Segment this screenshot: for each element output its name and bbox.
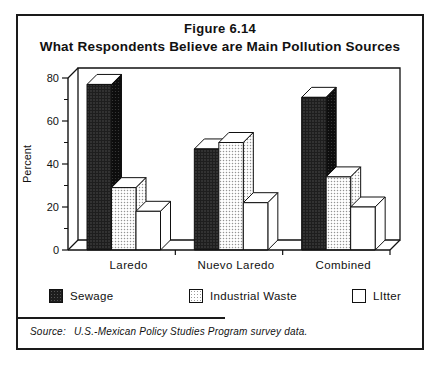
legend-label-litter: LItter — [373, 290, 401, 302]
litter-swatch-icon — [352, 289, 366, 303]
category-label: Combined — [316, 259, 372, 271]
industrial-waste-swatch-icon — [189, 289, 203, 303]
bar-chart-plot: 020406080PercentLaredoNuevo LaredoCombin… — [0, 0, 440, 366]
y-tick-label: 20 — [47, 201, 59, 213]
sewage-swatch-icon — [49, 289, 63, 303]
bar-nuevo-laredo-2 — [243, 193, 278, 250]
legend-item-litter: LItter — [352, 289, 401, 303]
y-tick-label: 40 — [47, 158, 59, 170]
legend-item-sewage: Sewage — [49, 289, 113, 303]
source-note: Source:U.S.-Mexican Policy Studies Progr… — [30, 326, 307, 337]
figure-page: Figure 6.14 What Respondents Believe are… — [0, 0, 440, 366]
y-tick-label: 80 — [47, 72, 59, 84]
source-divider-line — [17, 317, 225, 319]
legend-label-sewage: Sewage — [70, 290, 113, 302]
bar-combined-2 — [351, 197, 386, 250]
y-tick-label: 60 — [47, 115, 59, 127]
y-axis-label: Percent — [21, 145, 33, 183]
legend-item-industrial-waste: Industrial Waste — [189, 289, 297, 303]
y-tick-label: 0 — [53, 244, 59, 256]
bar-laredo-2 — [136, 201, 171, 250]
source-text: U.S.-Mexican Policy Studies Program surv… — [74, 326, 308, 337]
source-label: Source: — [30, 326, 66, 337]
legend-label-industrial-waste: Industrial Waste — [210, 290, 297, 302]
category-label: Laredo — [110, 259, 148, 271]
category-label: Nuevo Laredo — [197, 259, 274, 271]
